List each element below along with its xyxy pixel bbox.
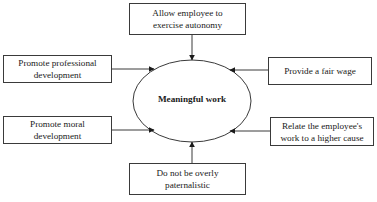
node-right-top: Provide a fair wage: [268, 57, 372, 85]
node-left-top-line-2: development: [18, 69, 96, 81]
node-left-bottom: Promote moral development: [3, 116, 112, 144]
node-top: Allow employee to exercise autonomy: [129, 3, 246, 35]
node-bottom-line-1: Do not be overly: [156, 167, 218, 179]
node-left-top-line-1: Promote professional: [18, 57, 96, 69]
node-right-top-line-1: Provide a fair wage: [284, 65, 356, 77]
node-bottom: Do not be overly paternalistic: [129, 163, 246, 195]
node-left-top: Promote professional development: [3, 55, 112, 83]
node-right-bottom: Relate the employee's work to a higher c…: [270, 117, 374, 146]
node-left-bottom-line-1: Promote moral: [30, 118, 85, 130]
node-top-line-2: exercise autonomy: [152, 19, 222, 31]
node-right-bottom-line-1: Relate the employee's: [280, 120, 363, 132]
node-top-line-1: Allow employee to: [152, 7, 222, 19]
center-label: Meaningful work: [133, 92, 251, 106]
node-bottom-line-2: paternalistic: [156, 179, 218, 191]
node-right-bottom-line-2: work to a higher cause: [280, 132, 363, 144]
node-left-bottom-line-2: development: [30, 130, 85, 142]
